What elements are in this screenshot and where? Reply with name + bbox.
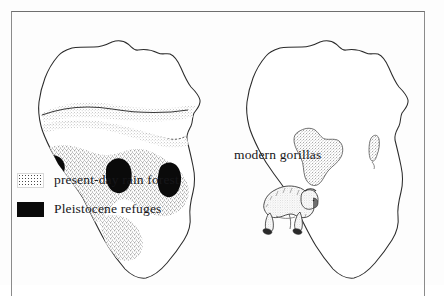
legend-item-refuges: Pleistocene refuges [17, 197, 192, 221]
legend-label-rainforest: present-day rain forest [54, 173, 179, 187]
legend-item-rainforest: present-day rain forest [17, 168, 192, 192]
gorilla-eye [313, 200, 315, 202]
legend: present-day rain forest Pleistocene refu… [17, 168, 192, 226]
stipple-swatch [17, 173, 44, 188]
legend-label-refuges: Pleistocene refuges [54, 202, 161, 216]
gorilla-illustration [256, 176, 324, 238]
gorilla-face [313, 198, 318, 208]
gorilla-far-arm [289, 214, 291, 229]
left-africa-map [14, 22, 219, 285]
modern-gorillas-label: modern gorillas [234, 147, 321, 163]
black-swatch [17, 202, 44, 217]
